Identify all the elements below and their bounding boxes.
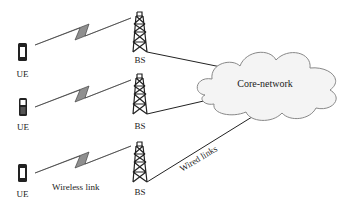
bs-label: BS bbox=[134, 121, 145, 131]
wireless-link-label: Wireless link bbox=[52, 182, 100, 192]
bs-label: BS bbox=[134, 55, 145, 65]
core-network-label: Core-network bbox=[237, 78, 293, 89]
lightning-icon-3 bbox=[35, 146, 131, 173]
bs-label: BS bbox=[134, 187, 145, 197]
tower-icon bbox=[133, 12, 147, 52]
ue-label: UE bbox=[17, 69, 29, 79]
bs-3: BS bbox=[133, 142, 147, 197]
bs-1: BS bbox=[133, 12, 147, 65]
ue-1: UE bbox=[17, 43, 29, 79]
network-diagram: Core-network UE UE UE BS BS bbox=[0, 0, 359, 211]
lightning-icon-1 bbox=[35, 18, 131, 45]
ue-label: UE bbox=[17, 189, 29, 199]
wired-link-1 bbox=[147, 52, 226, 68]
wireless-links bbox=[35, 18, 131, 173]
tower-icon bbox=[133, 142, 147, 182]
lightning-icon-2 bbox=[35, 80, 131, 107]
tower-icon bbox=[133, 74, 147, 114]
core-network-cloud: Core-network bbox=[197, 52, 336, 120]
ue-label: UE bbox=[17, 122, 29, 132]
wired-link-3 bbox=[147, 112, 260, 182]
ue-3: UE bbox=[17, 164, 29, 199]
wired-link-2 bbox=[147, 100, 208, 114]
ue-2: UE bbox=[17, 98, 29, 132]
bs-2: BS bbox=[133, 74, 147, 131]
